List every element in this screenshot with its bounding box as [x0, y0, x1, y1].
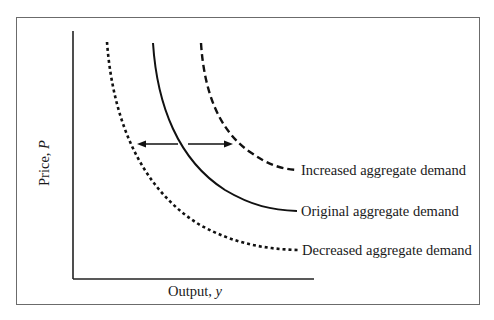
x-axis-label-text: Output, [168, 283, 216, 299]
label-increased-demand: Increased aggregate demand [301, 163, 466, 178]
label-original-demand: Original aggregate demand [301, 204, 459, 219]
shift-right-arrow [188, 141, 233, 148]
label-decreased-demand: Decreased aggregate demand [302, 243, 472, 258]
shift-left-arrow [137, 141, 178, 148]
x-axis-label: Output, y [168, 284, 222, 299]
ad-diagram [0, 0, 494, 320]
x-axis-variable: y [216, 283, 222, 299]
decreased-demand-curve [107, 42, 298, 250]
increased-demand-curve [201, 43, 297, 170]
y-axis-variable: P [36, 140, 52, 149]
y-axis-label: Price, P [36, 140, 53, 186]
y-axis-label-text: Price, [36, 149, 52, 186]
